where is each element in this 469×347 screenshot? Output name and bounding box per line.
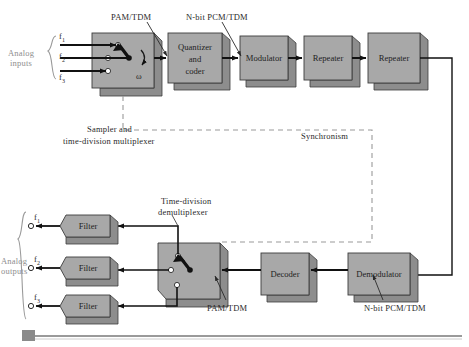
input-f1-label: f1 [59, 31, 65, 43]
block-repeater-1: Repeater [304, 36, 360, 87]
block-label-quantizer-1: Quantizer [178, 42, 212, 52]
block-label-filter-3: Filter [79, 301, 98, 311]
sampler-caption-line-1: Sampler and [87, 124, 132, 134]
analog-outputs-label-1: Analog [1, 256, 27, 266]
block-label-demodulator: Demodulator [356, 269, 401, 279]
block-diagram-svg: ω Quantizer and coder Modulator [0, 0, 469, 347]
block-quantizer: Quantizer and coder [168, 33, 230, 90]
block-label-modulator: Modulator [246, 53, 282, 63]
input-f1-sub: 1 [62, 37, 65, 43]
demux-caption-line-1: Time-division [161, 196, 211, 206]
synchronism-label: Synchronism [301, 131, 348, 141]
annotation-pcm-tdm-bottom: N-bit PCM/TDM [364, 303, 426, 313]
footer-decoration [22, 330, 462, 341]
diagram-canvas: ω Quantizer and coder Modulator [0, 0, 469, 347]
block-decoder: Decoder [261, 253, 317, 302]
block-filter-2: Filter [60, 257, 118, 286]
analog-inputs-label-1: Analog [8, 48, 34, 58]
analog-outputs-label-2: outputs [1, 266, 27, 276]
block-label-quantizer-2: and [189, 54, 202, 64]
block-demodulator: Demodulator [348, 253, 418, 302]
analog-inputs-label-2: inputs [10, 58, 32, 68]
synchronism-path [123, 96, 372, 242]
output-f2-label: f2 [34, 254, 40, 266]
sampler-caption-line-2: time-division multiplexer [63, 136, 155, 146]
block-demultiplexer [158, 243, 228, 307]
input-f2-label: f2 [59, 51, 65, 63]
block-label-repeater-2: Repeater [379, 53, 410, 63]
output-f1-label: f1 [34, 212, 40, 224]
input-f2-sub: 2 [62, 57, 65, 63]
demux-caption-line-2: demultiplexer [158, 207, 208, 217]
output-f3-label: f3 [34, 292, 40, 304]
output-f1-sub: 1 [37, 218, 40, 224]
block-label-filter-1: Filter [79, 221, 98, 231]
block-label-quantizer-3: coder [185, 66, 204, 76]
block-label-filter-2: Filter [79, 263, 98, 273]
block-filter-3: Filter [60, 295, 118, 324]
output-f3-sub: 3 [37, 298, 40, 304]
annotation-pcm-tdm-top: N-bit PCM/TDM [186, 12, 248, 22]
input-f3-label: f3 [59, 72, 65, 84]
block-filter-1: Filter [60, 215, 118, 244]
annotation-pam-tdm-bottom: PAM/TDM [207, 303, 247, 313]
input-f3-sub: 3 [62, 78, 65, 84]
block-label-repeater-1: Repeater [313, 53, 344, 63]
block-label-decoder: Decoder [270, 269, 299, 279]
block-modulator: Modulator [240, 36, 296, 87]
annotation-pam-tdm-top: PAM/TDM [111, 12, 151, 22]
output-f2-sub: 2 [37, 260, 40, 266]
block-sampler [92, 33, 162, 96]
block-repeater-2: Repeater [368, 33, 428, 90]
svg-text:ω: ω [136, 71, 142, 81]
